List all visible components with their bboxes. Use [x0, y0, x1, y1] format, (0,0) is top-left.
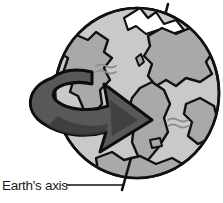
earths-axis-label: Earth's axis	[2, 178, 68, 193]
earth-axis-illustration: Earth's axis	[0, 0, 223, 203]
earth-axis-diagram: Earth's axis	[0, 0, 223, 203]
island-small-south	[150, 138, 162, 148]
